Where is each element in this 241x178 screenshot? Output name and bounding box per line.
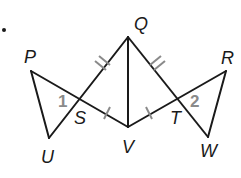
vertex-label-R: R (221, 48, 234, 68)
vertex-label-S: S (74, 108, 86, 128)
vertex-label-U: U (41, 147, 55, 167)
vertex-label-Q: Q (134, 14, 148, 34)
angle-label-2: 2 (190, 92, 199, 111)
bullet-dot (2, 28, 6, 32)
vertex-label-P: P (24, 47, 36, 67)
segment-PU (31, 71, 49, 138)
segment-RW (208, 71, 226, 137)
double-tick-QS (95, 56, 110, 70)
geometry-diagram: P Q R S T U V W 1 2 (0, 0, 241, 178)
vertex-label-V: V (122, 137, 136, 157)
angle-label-1: 1 (58, 92, 67, 111)
vertex-label-T: T (170, 108, 183, 128)
vertex-label-W: W (200, 141, 219, 161)
